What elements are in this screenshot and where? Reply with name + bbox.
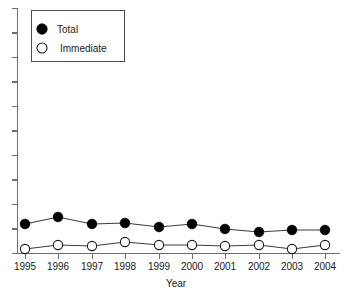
legend-box: [32, 11, 125, 62]
x-axis-title: Year: [166, 278, 187, 289]
y-axis-ticks: [12, 9, 18, 254]
data-point-total: [20, 219, 30, 229]
line-chart: 1995 1996 1997 1998 1999 2000 2001 2002 …: [0, 0, 348, 294]
series-markers-total: [20, 212, 330, 237]
x-tick-label: 2003: [281, 261, 304, 272]
x-axis-tick-labels: 1995 1996 1997 1998 1999 2000 2001 2002 …: [14, 261, 337, 272]
data-point-total: [287, 225, 297, 235]
legend-marker-immediate-icon: [37, 43, 47, 53]
data-point-total: [320, 225, 330, 235]
data-point-immediate: [320, 240, 329, 249]
data-point-immediate: [287, 244, 296, 253]
x-tick-label: 1996: [47, 261, 70, 272]
x-tick-label: 1998: [114, 261, 137, 272]
x-tick-label: 2002: [248, 261, 271, 272]
data-point-total: [187, 219, 197, 229]
data-point-immediate: [254, 240, 263, 249]
chart-canvas: 1995 1996 1997 1998 1999 2000 2001 2002 …: [0, 0, 348, 294]
series-line-immediate: [25, 242, 325, 249]
data-point-total: [120, 218, 130, 228]
data-point-immediate: [154, 240, 163, 249]
data-point-total: [87, 219, 97, 229]
x-tick-label: 2000: [181, 261, 204, 272]
data-point-total: [53, 212, 63, 222]
x-axis-ticks: [26, 254, 326, 260]
x-tick-label: 2004: [314, 261, 337, 272]
legend-label-immediate: Immediate: [60, 43, 107, 54]
legend-label-total: Total: [57, 24, 78, 35]
data-point-immediate: [53, 240, 62, 249]
data-point-immediate: [20, 244, 29, 253]
data-point-total: [154, 222, 164, 232]
data-point-total: [220, 224, 230, 234]
data-point-immediate: [120, 237, 129, 246]
data-point-immediate: [187, 240, 196, 249]
chart-legend: Total Immediate: [32, 11, 125, 62]
x-tick-label: 1997: [81, 261, 104, 272]
data-point-immediate: [220, 241, 229, 250]
x-tick-label: 1995: [14, 261, 37, 272]
x-tick-label: 1999: [148, 261, 171, 272]
data-point-total: [254, 227, 264, 237]
series-line-total: [25, 217, 325, 232]
x-tick-label: 2001: [214, 261, 237, 272]
legend-marker-total-icon: [37, 24, 47, 34]
data-point-immediate: [87, 241, 96, 250]
